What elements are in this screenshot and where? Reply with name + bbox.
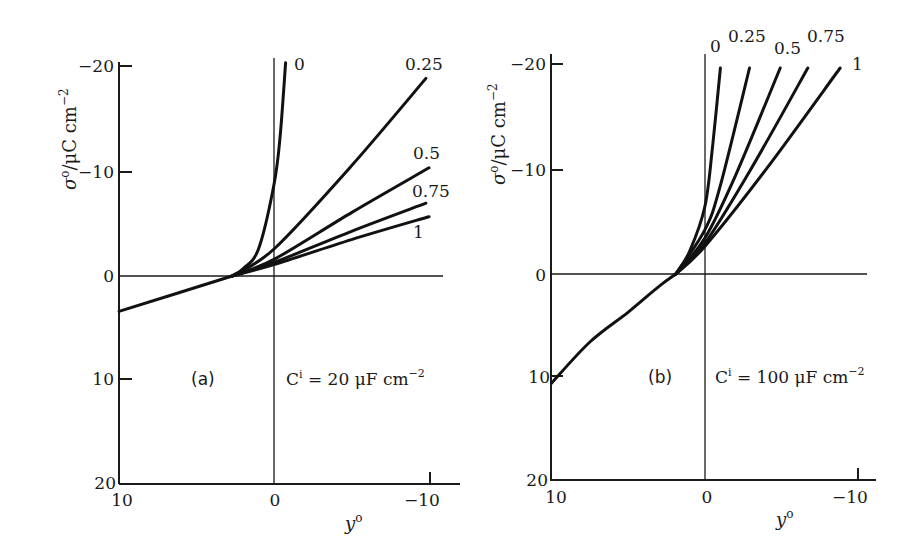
x-axis-label-b: yo bbox=[775, 507, 793, 530]
curve-label-075-b: 0.75 bbox=[807, 26, 845, 46]
curve-label-025-a: 0.25 bbox=[405, 54, 443, 74]
y-axis-label-a: σo/μC cm−2 bbox=[57, 88, 80, 190]
curve-label-0-a: 0 bbox=[294, 54, 305, 74]
curve-label-05-b: 0.5 bbox=[774, 38, 801, 58]
x-axis-label-a: yo bbox=[344, 511, 362, 534]
y-tick-label-b: −20 bbox=[510, 54, 546, 74]
y-tick-label-b: 0 bbox=[535, 265, 546, 285]
y-tick-label-b: −10 bbox=[510, 160, 546, 180]
x-tick-label-a: 10 bbox=[111, 490, 133, 510]
y-axis-label-b: σo/μC cm−2 bbox=[486, 83, 509, 185]
x-tick-label-b: 0 bbox=[702, 487, 713, 507]
x-tick-label-b: −10 bbox=[832, 487, 868, 507]
curve-common-branch bbox=[119, 276, 232, 311]
y-tick-label-b: 10 bbox=[528, 367, 550, 387]
chart-panel-a: −20 −10 0 10 20 10 0 −10 yo σo/μC cm−2 0… bbox=[57, 54, 460, 534]
curve-label-1-b: 1 bbox=[852, 54, 863, 74]
x-tick-label-a: 0 bbox=[270, 490, 281, 510]
curve-label-05-a: 0.5 bbox=[413, 143, 440, 163]
figure: −20 −10 0 10 20 10 0 −10 yo σo/μC cm−2 0… bbox=[0, 0, 914, 558]
curve-label-025-b: 0.25 bbox=[728, 26, 766, 46]
curve-label-1-a: 1 bbox=[413, 222, 424, 242]
x-tick-label-a: −10 bbox=[404, 490, 440, 510]
capacitance-annotation-b: Ci = 100 μF cm−2 bbox=[715, 365, 865, 387]
panel-label-a: (a) bbox=[191, 369, 215, 389]
y-tick-label-a: 10 bbox=[92, 369, 114, 389]
y-tick-label-a: −20 bbox=[78, 56, 114, 76]
curves-b bbox=[552, 68, 841, 383]
y-tick-label-a: 0 bbox=[103, 266, 114, 286]
curve-label-075-a: 0.75 bbox=[412, 181, 450, 201]
y-tick-label-a: −10 bbox=[78, 162, 114, 182]
capacitance-annotation-a: Ci = 20 μF cm−2 bbox=[286, 367, 425, 389]
chart-panel-b: −20 −10 0 10 20 10 0 −10 yo σo/μC cm−2 0… bbox=[486, 26, 876, 530]
curve-label-0-b: 0 bbox=[710, 36, 721, 56]
x-tick-label-b: 10 bbox=[545, 487, 567, 507]
panel-label-b: (b) bbox=[648, 367, 672, 387]
